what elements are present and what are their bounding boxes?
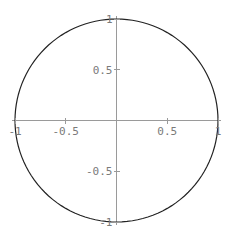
x-tick-label: -1 bbox=[8, 125, 21, 138]
y-tick-label: -0.5 bbox=[86, 165, 113, 178]
y-tick-label: 0.5 bbox=[93, 64, 113, 77]
axes bbox=[12, 16, 221, 225]
x-tick-label: 1 bbox=[215, 125, 222, 138]
y-tick-label: -1 bbox=[99, 216, 112, 229]
x-tick-label: -0.5 bbox=[53, 125, 80, 138]
plot-area: -1-0.50.5110.5-0.5-1 bbox=[0, 0, 231, 240]
y-tick-label: 1 bbox=[106, 13, 113, 26]
x-tick-label: 0.5 bbox=[157, 125, 177, 138]
